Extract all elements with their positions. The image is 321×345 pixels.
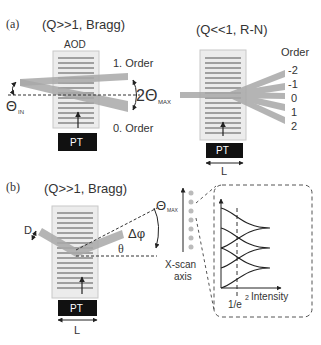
theta-in-arc [12,82,16,95]
pt-label: PT [70,137,83,148]
zeroth-order-label: 0. Order [113,122,154,134]
gaussian-profiles [221,208,270,288]
b-pt-label: PT [70,303,83,314]
e-label: 1/e [228,299,242,310]
panel-a-left-title: (Q>>1, Bragg) [42,17,125,32]
first-order-label: 1. Order [113,57,154,69]
order-label: -1 [288,78,298,90]
two-theta-symbol: 2Θ [136,87,157,104]
panel-a-raman-nath: (Q<<1, R-N) PT L Order -2 -1 0 1 [180,22,309,177]
panel-a-right-title: (Q<<1, R-N) [196,22,268,37]
theta-in-symbol: Θ [6,98,17,114]
intensity-label: Intensity [251,291,288,302]
b-length-label: L [74,324,80,336]
xscan-label-1: X-scan [165,259,196,270]
theta-max-symbol: Θ [156,198,166,213]
order-label: -2 [288,64,298,76]
panel-b-title: (Q>>1, Bragg) [44,181,127,196]
order-header: Order [281,46,309,58]
order-label: 0 [291,92,297,104]
rn-pt-label: PT [216,145,229,156]
e-sup: 2 [245,294,249,301]
panel-b: (b) (Q>>1, Bragg) D Δφ θ Θ MAX PT L [6,180,312,336]
panel-a-bragg: (a) (Q>>1, Bragg) AOD PT Θ IN 1. Order 0… [6,17,171,151]
theta-max-arc [154,208,159,248]
theta-in-sub: IN [18,109,24,115]
two-theta-sub: MAX [158,99,171,105]
aod-label: AOD [64,39,86,50]
theta-max-sub: MAX [167,207,179,213]
scan-spots [189,191,194,250]
d-label: D [24,224,32,236]
panel-b-label: (b) [6,180,20,194]
d-arrow [32,231,36,240]
rn-length-label: L [221,165,227,177]
delta-phi-label: Δφ [128,226,145,241]
xscan-label-2: axis [174,271,192,282]
theta-label: θ [118,242,124,256]
diagram-canvas: (a) (Q>>1, Bragg) AOD PT Θ IN 1. Order 0… [0,0,321,345]
panel-a-label: (a) [6,17,19,31]
order-label: 2 [291,120,297,132]
order-label: 1 [291,106,297,118]
